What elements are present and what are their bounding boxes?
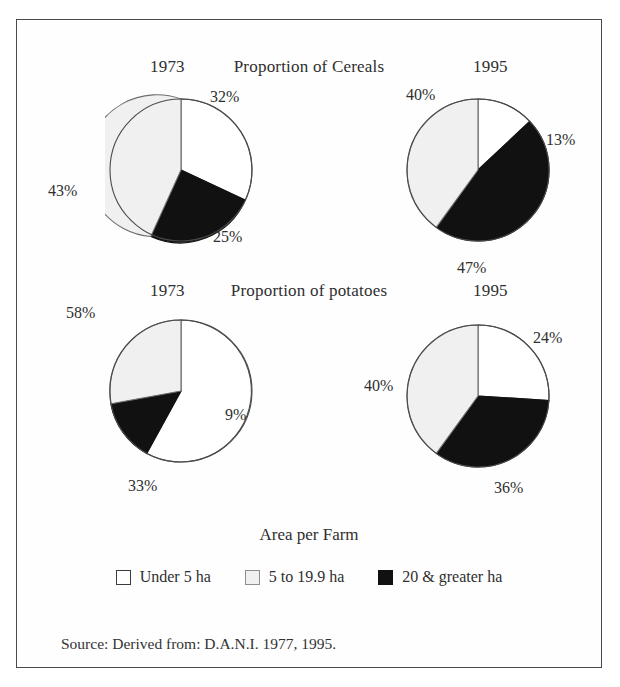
legend-item-under-5-ha[interactable]: Under 5 ha (116, 568, 211, 586)
pie-potatoes-1973-svg (105, 315, 257, 467)
pie1-label-under5ha: 32% (210, 89, 239, 105)
pie-chart-cereals-1995 (402, 94, 554, 246)
legend-label-20-and-greater-ha: 20 & greater ha (402, 568, 502, 586)
pie2-label-20plusha: 47% (457, 260, 486, 276)
row1-title: Proportion of Cereals (17, 57, 601, 77)
source-note: Source: Derived from: D.A.N.I. 1977, 199… (61, 635, 336, 653)
pie3-label-under5ha: 58% (66, 305, 95, 321)
pie4-label-5to19ha: 40% (364, 378, 393, 394)
black-square-icon (378, 570, 393, 585)
figure-border-frame: 1973 Proportion of Cereals 1995 32% 43% … (16, 19, 602, 668)
legend-title: Area per Farm (17, 525, 601, 545)
pie3-label-20plusha: 9% (225, 407, 246, 423)
row-header-cereals: 1973 Proportion of Cereals 1995 (17, 54, 601, 80)
pie-potatoes-1995-svg (402, 320, 554, 472)
row1-year-right: 1995 (473, 57, 508, 77)
pie2-label-5to19ha: 40% (406, 87, 435, 103)
row2-title: Proportion of potatoes (17, 281, 601, 301)
gray-square-icon (245, 570, 260, 585)
pie-chart-potatoes-1973 (105, 315, 257, 467)
pie-cereals-1995-svg (402, 94, 554, 246)
legend-label-5-to-19-9-ha: 5 to 19.9 ha (269, 568, 345, 586)
pie-chart-cereals-1973 (105, 94, 257, 246)
pie1-label-5to19ha: 43% (48, 183, 77, 199)
legend-item-5-to-19-9-ha[interactable]: 5 to 19.9 ha (245, 568, 345, 586)
legend-item-20-and-greater-ha[interactable]: 20 & greater ha (378, 568, 502, 586)
pie-cereals-1973-svg (105, 94, 257, 246)
legend: Under 5 ha 5 to 19.9 ha 20 & greater ha (17, 568, 601, 586)
pie-chart-potatoes-1995 (402, 320, 554, 472)
pie3-label-5to19ha: 33% (128, 478, 157, 494)
pie1-label-20plusha: 25% (213, 229, 242, 245)
white-square-icon (116, 570, 131, 585)
pie2-label-under5ha: 13% (546, 132, 575, 148)
pie3-slice-5to19ha (110, 320, 181, 404)
pie4-label-under5ha: 24% (533, 330, 562, 346)
pie4-label-20plusha: 36% (494, 480, 523, 496)
row-header-potatoes: 1973 Proportion of potatoes 1995 (17, 278, 601, 304)
legend-label-under-5-ha: Under 5 ha (140, 568, 211, 586)
row2-year-right: 1995 (473, 281, 508, 301)
